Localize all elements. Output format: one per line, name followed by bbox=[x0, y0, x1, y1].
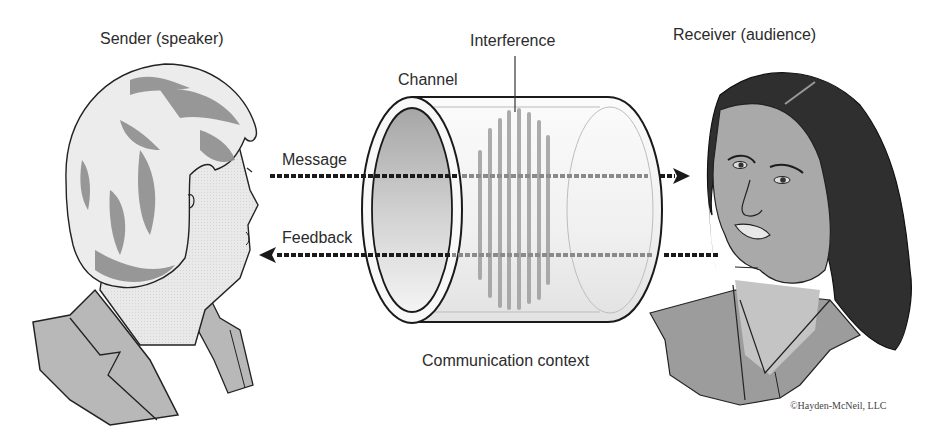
channel-cylinder bbox=[362, 97, 662, 323]
receiver-label: Receiver (audience) bbox=[673, 26, 816, 44]
context-label: Communication context bbox=[422, 352, 589, 370]
channel-label: Channel bbox=[398, 71, 458, 89]
sender-collar-right bbox=[198, 302, 253, 393]
sender-label: Sender (speaker) bbox=[100, 30, 224, 48]
sender-figure bbox=[33, 64, 258, 425]
communication-model-diagram bbox=[0, 0, 949, 439]
feedback-label: Feedback bbox=[282, 229, 352, 247]
receiver-figure bbox=[650, 73, 911, 405]
copyright-credit: ©Hayden-McNeil, LLC bbox=[790, 400, 886, 411]
message-label: Message bbox=[282, 151, 347, 169]
interference-label: Interference bbox=[470, 32, 555, 50]
